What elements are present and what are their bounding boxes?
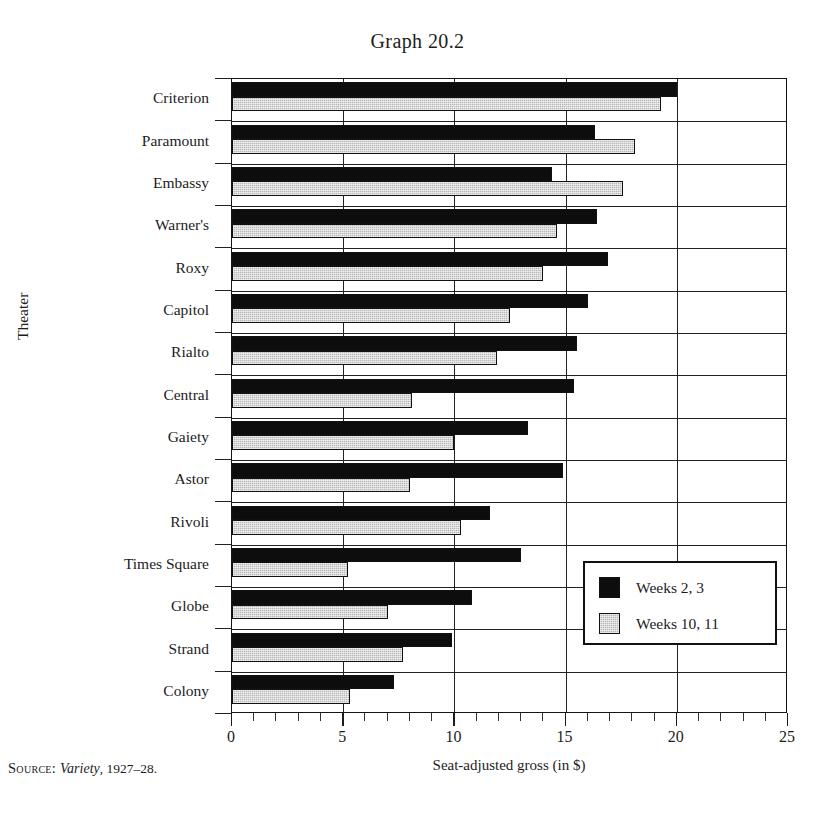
bar-weeks-2-3 xyxy=(232,548,521,563)
x-tick-minor xyxy=(431,713,432,721)
gridline-horizontal xyxy=(232,418,786,419)
y-tick xyxy=(215,374,231,375)
gridline-horizontal xyxy=(232,672,786,673)
x-tick-minor xyxy=(298,713,299,721)
x-tick-minor xyxy=(387,713,388,721)
y-axis-label-strand: Strand xyxy=(0,640,209,658)
bar-weeks-10-11 xyxy=(232,520,461,535)
y-tick xyxy=(215,459,231,460)
gridline-horizontal xyxy=(232,206,786,207)
y-tick xyxy=(215,205,231,206)
y-axis-label-embassy: Embassy xyxy=(0,174,209,192)
gridline-horizontal xyxy=(232,545,786,546)
bar-weeks-2-3 xyxy=(232,209,597,224)
x-tick-minor xyxy=(654,713,655,721)
y-axis-label-rivoli: Rivoli xyxy=(0,513,209,531)
y-axis-label-astor: Astor xyxy=(0,470,209,488)
legend-label: Weeks 10, 11 xyxy=(636,615,719,633)
x-tick-minor xyxy=(720,713,721,721)
y-axis-label-central: Central xyxy=(0,386,209,404)
legend-swatch-icon xyxy=(599,613,620,634)
y-tick xyxy=(215,247,231,248)
x-tick-minor xyxy=(498,713,499,721)
gridline-horizontal xyxy=(232,291,786,292)
gridline-horizontal xyxy=(232,333,786,334)
bar-weeks-2-3 xyxy=(232,633,452,648)
source-label: Source: xyxy=(8,760,56,776)
x-tick-minor xyxy=(275,713,276,721)
bar-weeks-10-11 xyxy=(232,478,410,493)
x-tick-minor xyxy=(253,713,254,721)
bar-weeks-10-11 xyxy=(232,224,557,239)
y-axis-label-roxy: Roxy xyxy=(0,259,209,277)
y-tick xyxy=(215,501,231,502)
x-tick-label-0: 0 xyxy=(211,728,251,746)
x-tick-minor xyxy=(520,713,521,721)
bar-weeks-10-11 xyxy=(232,351,497,366)
x-tick-minor xyxy=(587,713,588,721)
bar-weeks-10-11 xyxy=(232,139,635,154)
y-tick xyxy=(215,544,231,545)
bar-weeks-2-3 xyxy=(232,379,574,394)
legend-label: Weeks 2, 3 xyxy=(636,579,704,597)
x-tick-major xyxy=(231,713,232,726)
bar-weeks-2-3 xyxy=(232,463,563,478)
bar-weeks-2-3 xyxy=(232,421,528,436)
x-tick-label-10: 10 xyxy=(433,728,473,746)
y-axis-label-warner-s: Warner's xyxy=(0,216,209,234)
gridline-horizontal xyxy=(232,248,786,249)
bar-weeks-2-3 xyxy=(232,252,608,267)
x-tick-label-15: 15 xyxy=(545,728,585,746)
y-tick xyxy=(215,586,231,587)
x-tick-label-20: 20 xyxy=(656,728,696,746)
y-tick xyxy=(215,713,231,714)
y-axis-label-criterion: Criterion xyxy=(0,89,209,107)
bar-weeks-2-3 xyxy=(232,294,588,309)
source-publication: Variety xyxy=(60,761,100,776)
gridline-vertical xyxy=(566,79,567,712)
x-tick-major xyxy=(676,713,677,726)
x-tick-label-5: 5 xyxy=(322,728,362,746)
x-tick-major xyxy=(342,713,343,726)
y-tick xyxy=(215,78,231,79)
x-axis: 0510152025 xyxy=(231,713,787,753)
bar-weeks-10-11 xyxy=(232,308,510,323)
y-axis-label-colony: Colony xyxy=(0,682,209,700)
gridline-horizontal xyxy=(232,502,786,503)
bar-weeks-10-11 xyxy=(232,605,388,620)
y-tick xyxy=(215,332,231,333)
x-axis-title: Seat-adjusted gross (in $) xyxy=(231,757,787,774)
bar-weeks-10-11 xyxy=(232,181,623,196)
legend-swatch-icon xyxy=(599,577,620,598)
y-axis-label-capitol: Capitol xyxy=(0,301,209,319)
y-axis-label-paramount: Paramount xyxy=(0,132,209,150)
bar-weeks-10-11 xyxy=(232,393,412,408)
y-axis-ticks: CriterionParamountEmbassyWarner'sRoxyCap… xyxy=(0,78,231,713)
bar-weeks-2-3 xyxy=(232,82,677,97)
y-axis-label-gaiety: Gaiety xyxy=(0,428,209,446)
bar-weeks-10-11 xyxy=(232,562,348,577)
y-tick xyxy=(215,417,231,418)
legend-item-weeks-2-3: Weeks 2, 3 xyxy=(599,577,704,598)
y-tick xyxy=(215,628,231,629)
x-tick-minor xyxy=(631,713,632,721)
y-tick xyxy=(215,671,231,672)
y-tick xyxy=(215,120,231,121)
y-axis-label-globe: Globe xyxy=(0,597,209,615)
x-tick-minor xyxy=(320,713,321,721)
x-tick-minor xyxy=(743,713,744,721)
bar-weeks-2-3 xyxy=(232,336,577,351)
bar-weeks-10-11 xyxy=(232,97,661,112)
x-tick-minor xyxy=(609,713,610,721)
gridline-horizontal xyxy=(232,375,786,376)
chart-title: Graph 20.2 xyxy=(0,30,835,53)
bar-weeks-10-11 xyxy=(232,435,454,450)
gridline-horizontal xyxy=(232,164,786,165)
bar-weeks-2-3 xyxy=(232,675,394,690)
chart-figure: Graph 20.2 Theater CriterionParamountEmb… xyxy=(0,0,835,815)
bar-weeks-10-11 xyxy=(232,647,403,662)
x-tick-label-25: 25 xyxy=(767,728,807,746)
y-axis-label-rialto: Rialto xyxy=(0,343,209,361)
x-tick-minor xyxy=(476,713,477,721)
gridline-horizontal xyxy=(232,121,786,122)
